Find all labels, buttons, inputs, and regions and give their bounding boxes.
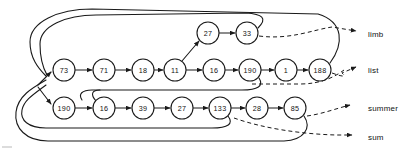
node-value: 188 xyxy=(314,66,327,75)
node-value: 16 xyxy=(100,104,109,113)
node-value: 18 xyxy=(139,66,148,75)
node-t2[interactable]: 33 xyxy=(236,22,258,44)
node-value: 190 xyxy=(244,66,257,75)
node-m3[interactable]: 18 xyxy=(132,59,154,81)
pointer-edge-limb xyxy=(259,27,356,37)
pointer-edge-sum xyxy=(234,118,352,135)
linked-list-diagram: 27 33 73 71 18 11 xyxy=(0,0,403,153)
node-m4[interactable]: 11 xyxy=(164,59,186,81)
node-m1[interactable]: 73 xyxy=(53,59,75,81)
pointer-label-limb: limb xyxy=(368,30,384,39)
node-value: 133 xyxy=(214,104,227,113)
node-value: 27 xyxy=(204,29,213,38)
node-value: 11 xyxy=(171,66,179,75)
node-value: 1 xyxy=(284,66,288,75)
node-m8[interactable]: 188 xyxy=(309,59,331,81)
node-value: 27 xyxy=(178,104,187,113)
node-b6[interactable]: 28 xyxy=(246,97,268,119)
pointer-label-list: list xyxy=(368,66,379,75)
node-b4[interactable]: 27 xyxy=(171,97,193,119)
node-value: 71 xyxy=(100,66,109,75)
edge-11-27 xyxy=(182,41,199,61)
node-value: 33 xyxy=(243,29,252,38)
node-value: 85 xyxy=(291,104,300,113)
node-m2[interactable]: 71 xyxy=(93,59,115,81)
node-value: 190 xyxy=(58,104,71,113)
pointer-edge-list xyxy=(332,67,356,76)
scan-artifact xyxy=(2,146,12,148)
node-t1[interactable]: 27 xyxy=(197,22,219,44)
pointer-label-summer: summer xyxy=(368,104,398,113)
diagram-canvas: 27 33 73 71 18 11 xyxy=(0,0,403,153)
node-b3[interactable]: 39 xyxy=(132,97,154,119)
node-m6[interactable]: 190 xyxy=(239,59,261,81)
node-value: 16 xyxy=(210,66,219,75)
node-b1[interactable]: 190 xyxy=(53,97,75,119)
pointer-label-sum: sum xyxy=(368,133,384,142)
pointer-edge-summer xyxy=(307,105,350,116)
pointer-label-group: limb list summer sum xyxy=(368,30,398,142)
node-m5[interactable]: 16 xyxy=(203,59,225,81)
node-value: 39 xyxy=(139,104,148,113)
node-b5[interactable]: 133 xyxy=(209,97,231,119)
return-edge-190-to-b2 xyxy=(80,78,260,100)
node-value: 28 xyxy=(253,104,262,113)
node-b7[interactable]: 85 xyxy=(284,97,306,119)
node-value: 73 xyxy=(60,66,69,75)
node-b2[interactable]: 16 xyxy=(93,97,115,119)
node-m7[interactable]: 1 xyxy=(275,59,297,81)
edge-split-to-190 xyxy=(38,87,51,104)
